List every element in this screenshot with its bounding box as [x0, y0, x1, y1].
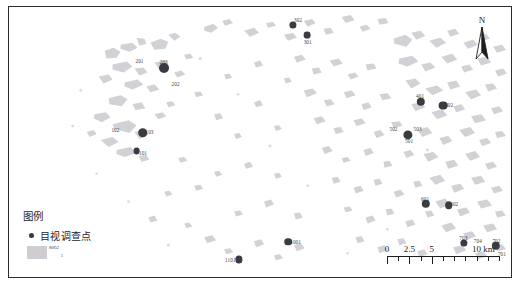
scale-bar-tick	[443, 256, 444, 261]
scale-bar-tick	[465, 256, 466, 261]
scale-bar-axis	[387, 256, 499, 265]
survey-point-label: 301	[304, 39, 312, 45]
survey-point-label: 202	[172, 81, 180, 87]
survey-point-label: 602	[450, 201, 458, 207]
map-frame: 3023012012032021021031014014025025035016…	[8, 6, 512, 278]
survey-point-label: 102	[111, 127, 119, 133]
scale-bar-label: 10 km	[472, 244, 495, 254]
survey-point-label: 201	[135, 58, 143, 64]
survey-point-label: 703	[459, 235, 467, 241]
legend-entry-area: 86852 1	[23, 246, 143, 259]
survey-point-label: 1001	[290, 239, 301, 245]
survey-point-label: 501	[405, 138, 413, 144]
survey-point-label: 503	[414, 126, 422, 132]
scale-bar-tick	[398, 256, 399, 261]
survey-point-label: 1101	[225, 257, 236, 263]
map-page: 3023012012032021021031014014025025035016…	[0, 0, 520, 290]
scale-bar-tick	[387, 256, 388, 264]
survey-point-label: 601	[421, 196, 429, 202]
survey-point-label: 101	[139, 150, 147, 156]
filled-circle-icon	[29, 233, 34, 238]
scale-bar-tick	[421, 256, 422, 261]
survey-point-label: 402	[445, 102, 453, 108]
scale-bar-tick	[477, 256, 478, 261]
survey-point-label: 302	[294, 17, 302, 23]
scale-bar-tick	[432, 256, 433, 264]
scale-bar-label: 2.5	[404, 244, 415, 254]
scale-bar-label: 0	[385, 244, 390, 254]
north-arrow-icon	[467, 25, 497, 61]
survey-point	[304, 32, 311, 39]
scale-bar-tick	[409, 256, 410, 264]
legend-entry-survey-point: 目视调查点	[23, 228, 143, 243]
legend-area-label: 86852	[49, 246, 59, 251]
area-swatch-icon	[27, 246, 47, 259]
survey-point-label: 203	[160, 59, 168, 65]
survey-point-label: 401	[416, 93, 424, 99]
survey-point-label: 103	[145, 129, 153, 135]
scale-bar: 02.5510 km	[387, 244, 499, 265]
legend-area-sub-label: 1	[61, 254, 63, 258]
scale-bar-tick	[488, 256, 489, 261]
scale-bar-tick	[454, 256, 455, 261]
scale-bar-label: 5	[430, 244, 435, 254]
legend-title: 图例	[23, 208, 143, 223]
scale-bar-tick	[499, 256, 500, 261]
scale-bar-labels: 02.5510 km	[387, 244, 499, 256]
north-arrow: N	[467, 15, 497, 63]
north-arrow-label: N	[467, 15, 497, 25]
legend: 图例 目视调查点 86852 1	[23, 208, 143, 259]
survey-point-label: 704	[474, 238, 482, 244]
survey-point-label: 502	[389, 126, 397, 132]
legend-entry-label: 目视调查点	[40, 228, 92, 243]
